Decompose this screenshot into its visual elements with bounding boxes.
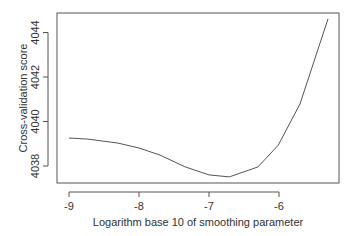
y-tick-label: 4040 [29,109,41,133]
plot-area [57,13,339,183]
chart: -9-8-7-6 4038404040424044 Logarithm base… [0,0,356,236]
x-tick-label: -8 [134,200,144,212]
y-tick-label: 4042 [29,65,41,89]
x-tick-label: -7 [204,200,214,212]
y-axis: 4038404040424044 [29,20,48,178]
x-axis-label: Logarithm base 10 of smoothing parameter [93,216,304,228]
cv-score-line [69,19,328,177]
x-tick-label: -6 [274,200,284,212]
y-tick-label: 4038 [29,154,41,178]
x-axis: -9-8-7-6 [64,192,284,212]
y-axis-label: Cross-validation score [17,44,29,153]
y-tick-label: 4044 [29,20,41,44]
x-tick-label: -9 [64,200,74,212]
